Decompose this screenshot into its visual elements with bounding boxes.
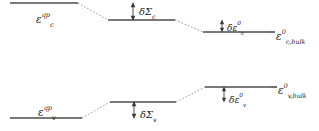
valence-qp-label: εqpv — [38, 103, 56, 122]
valence-eps-symbol: δε — [229, 95, 239, 105]
valence-eps-superscript: 0 — [239, 92, 243, 98]
conduction-sigma-subscript: c — [152, 13, 156, 21]
conduction-connector-2 — [175, 20, 203, 32]
valence-bulk-subscript: v,bulk — [288, 92, 307, 100]
valence-eps-shift-arrow — [222, 87, 226, 103]
valence-eps-subscript: v — [243, 102, 246, 108]
valence-sigma-subscript: v — [153, 116, 157, 124]
conduction-sigma-symbol: δΣ — [139, 6, 152, 17]
conduction-qp-subscript: c — [50, 21, 54, 29]
conduction-connector-1 — [78, 3, 108, 20]
conduction-bulk-subscript: c,bulk — [286, 38, 306, 46]
energy-level-diagram: εqpc δΣc δε0c ε0c,bulk εqpv δΣv δε0v ε0v… — [0, 0, 319, 131]
conduction-eps-subscript: c — [241, 30, 244, 36]
valence-connector-2 — [176, 87, 205, 102]
conduction-sigma-shift-label: δΣc — [139, 2, 156, 21]
valence-sigma-shift-arrow — [132, 101, 137, 119]
conduction-sigma-shift-arrow — [131, 2, 136, 21]
valence-sigma-shift-label: δΣv — [140, 105, 157, 124]
conduction-qp-superscript: qp — [42, 11, 50, 19]
valence-connector-1 — [82, 102, 110, 118]
valence-sigma-symbol: δΣ — [140, 109, 153, 120]
valence-eps-shift-label: δε0v — [229, 90, 246, 109]
valence-bulk-label: ε0v,bulk — [278, 81, 307, 100]
conduction-eps-shift-label: δε0c — [227, 18, 244, 37]
conduction-bulk-label: ε0c,bulk — [276, 27, 305, 46]
valence-qp-subscript: v — [52, 114, 56, 122]
valence-bulk-superscript: 0 — [284, 82, 288, 90]
conduction-eps-shift-arrow — [220, 20, 224, 33]
conduction-qp-label: εqpc — [36, 10, 54, 29]
valence-qp-superscript: qp — [44, 104, 52, 112]
conduction-eps-symbol: δε — [227, 23, 237, 33]
conduction-bulk-superscript: 0 — [282, 28, 286, 36]
conduction-eps-superscript: 0 — [237, 20, 241, 26]
